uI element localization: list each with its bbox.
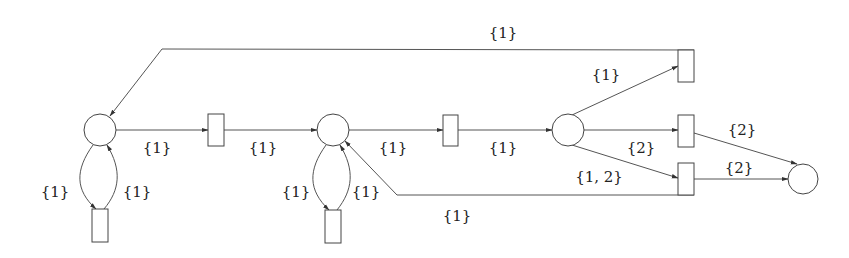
label-t7-p2: {1} (352, 183, 381, 201)
label-t2-p3: {1} (489, 139, 518, 157)
place-p3 (552, 114, 584, 146)
label-p3-t4: {2} (627, 139, 656, 157)
label-p2-t2: {1} (379, 139, 408, 157)
transition-t5 (678, 163, 694, 195)
label-bottom-return: {1} (443, 207, 472, 225)
label-t5-p4: {2} (725, 159, 754, 177)
transition-t7 (325, 210, 341, 243)
arc-t6-p1 (104, 145, 117, 209)
place-p2 (317, 114, 349, 146)
arc-t7-p2 (337, 145, 350, 210)
arc-p1-t6 (80, 145, 96, 209)
label-p1-t1: {1} (143, 139, 172, 157)
label-t6-p1: {1} (123, 183, 152, 201)
arc-p3-t3 (572, 66, 678, 115)
label-p1-t6: {1} (41, 183, 70, 201)
label-top-return: {1} (489, 24, 518, 42)
petri-net-diagram: {1} {1} {1} {1} {1} {1} {2} {1, 2} {2} {… (0, 0, 849, 258)
transition-t1 (208, 114, 224, 146)
label-t4-p4: {2} (728, 121, 757, 139)
transition-t2 (443, 115, 458, 146)
label-p2-t7: {1} (282, 183, 311, 201)
place-p1 (84, 114, 116, 146)
label-p3-t5: {1, 2} (575, 168, 623, 186)
transition-t3 (678, 50, 694, 82)
label-p3-t3: {1} (592, 66, 621, 84)
place-p4 (788, 164, 818, 194)
arc-p2-t7 (313, 145, 329, 210)
label-t1-p2: {1} (249, 139, 278, 157)
transition-t6 (92, 209, 108, 242)
transition-t4 (678, 115, 694, 147)
